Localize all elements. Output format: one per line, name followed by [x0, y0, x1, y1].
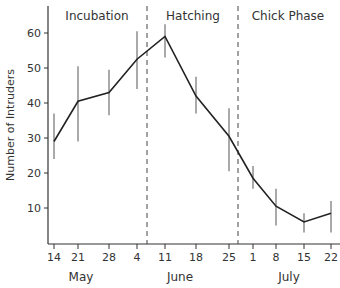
phase-label: Hatching: [166, 9, 220, 23]
x-tick-label: 25: [222, 251, 236, 264]
phase-label: Chick Phase: [252, 9, 325, 23]
month-label: July: [277, 270, 300, 284]
x-tick-label: 1: [250, 251, 257, 264]
x-tick-label: 15: [297, 251, 311, 264]
x-tick-label: 4: [134, 251, 141, 264]
y-tick-label: 60: [27, 27, 41, 40]
month-label: June: [166, 270, 193, 284]
x-tick-label: 8: [273, 251, 280, 264]
phase-label: Incubation: [65, 9, 128, 23]
y-tick-label: 20: [27, 167, 41, 180]
y-tick-label: 10: [27, 202, 41, 215]
x-tick-label: 21: [71, 251, 85, 264]
x-tick-label: 28: [102, 251, 116, 264]
x-tick-label: 14: [47, 251, 61, 264]
y-tick-label: 50: [27, 62, 41, 75]
x-tick-label: 11: [158, 251, 172, 264]
y-tick-label: 30: [27, 132, 41, 145]
month-label: May: [69, 270, 94, 284]
y-tick-label: 40: [27, 97, 41, 110]
data-line: [54, 37, 331, 223]
y-axis-label: Number of Intruders: [4, 69, 17, 181]
x-tick-label: 22: [324, 251, 338, 264]
x-tick-label: 18: [189, 251, 203, 264]
intruders-line-chart: 102030405060Number of Intruders142128411…: [0, 0, 340, 288]
